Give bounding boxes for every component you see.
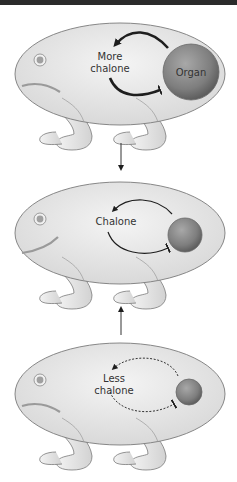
organ-medium [168, 218, 202, 252]
label-chalone-bottom: chalone [94, 385, 133, 396]
panel-bottom-organism [15, 343, 225, 470]
label-chalone-top: chalone [90, 63, 129, 74]
organ-label: Organ [176, 67, 207, 78]
label-chalone-middle: Chalone [96, 216, 137, 227]
chalone-feedback-diagram: Organ More chalone Chalone Less chalone [0, 0, 237, 482]
label-more: More [98, 51, 123, 62]
label-less: Less [103, 373, 125, 384]
organ-small [176, 379, 202, 405]
